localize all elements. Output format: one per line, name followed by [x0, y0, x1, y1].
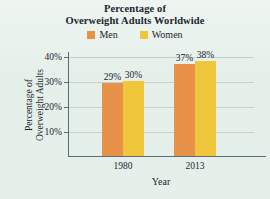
- x-axis-title: Year: [68, 176, 254, 187]
- y-tick-20: [64, 107, 68, 108]
- bar-1980-men: 29%: [102, 83, 123, 156]
- plot-area: 40% 30% 20% 10% 29% 30% 37% 38% 1980 201…: [68, 52, 254, 157]
- x-axis-line: [68, 156, 266, 157]
- bar-label-2013-women: 38%: [197, 50, 214, 60]
- chart-legend: Men Women: [0, 30, 270, 40]
- x-tick-label-1980: 1980: [114, 161, 133, 171]
- legend-item-men: Men: [87, 30, 117, 40]
- bar-1980-women: 30%: [123, 81, 144, 156]
- y-tick-label-40: 40%: [45, 52, 62, 62]
- chart-title-line-1: Percentage of: [0, 3, 270, 15]
- y-tick-label-20: 20%: [45, 102, 62, 112]
- bar-label-1980-women: 30%: [125, 70, 142, 80]
- bar-2013-women: 38%: [195, 61, 216, 156]
- legend-item-women: Women: [140, 30, 183, 40]
- y-axis-line: [68, 52, 69, 157]
- gridline-20: [68, 107, 254, 108]
- chart-title: Percentage of Overweight Adults Worldwid…: [0, 3, 270, 26]
- legend-swatch-women: [140, 31, 148, 39]
- y-tick-10: [64, 132, 68, 133]
- y-tick-40: [64, 57, 68, 58]
- chart-figure: Percentage of Overweight Adults Worldwid…: [0, 0, 270, 199]
- x-tick-label-2013: 2013: [186, 161, 205, 171]
- legend-label-women: Women: [152, 30, 183, 40]
- y-axis-title-line-1: Percentage of: [24, 68, 35, 140]
- bar-label-2013-men: 37%: [176, 53, 193, 63]
- gridline-10: [68, 132, 254, 133]
- gridline-30: [68, 82, 254, 83]
- bar-label-1980-men: 29%: [104, 72, 121, 82]
- y-tick-label-30: 30%: [45, 77, 62, 87]
- bar-2013-men: 37%: [174, 64, 195, 156]
- gridline-40: [68, 57, 254, 58]
- legend-swatch-men: [87, 31, 95, 39]
- legend-label-men: Men: [99, 30, 117, 40]
- chart-title-line-2: Overweight Adults Worldwide: [0, 15, 270, 27]
- y-tick-label-10: 10%: [45, 127, 62, 137]
- y-tick-30: [64, 82, 68, 83]
